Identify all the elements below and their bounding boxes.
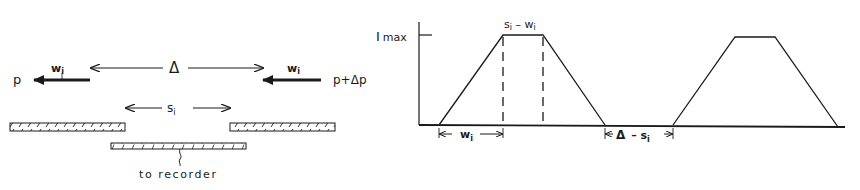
x-axis	[419, 125, 845, 127]
intensity-plot: Imax si – wi wi Δ – si	[376, 18, 845, 144]
delta-label: Δ	[169, 59, 180, 77]
pressure-label-left: p	[13, 72, 21, 87]
peak-2-profile	[673, 37, 838, 127]
peak-1-profile	[439, 35, 605, 125]
apparatus-schematic: p wi Δ wi p+Δp si	[10, 59, 367, 181]
slit-label: si	[167, 101, 176, 117]
detector-plate	[111, 143, 246, 149]
plateau-width-label: si – wi	[504, 18, 536, 32]
gap-label: Δ – si	[616, 128, 650, 144]
right-slit-plate	[230, 123, 335, 131]
flow-label-right: wi	[287, 62, 300, 76]
imax-label: Imax	[376, 29, 407, 44]
flow-label-left: wi	[51, 62, 64, 76]
recorder-wire	[179, 149, 181, 166]
rise-width-label: wi	[460, 128, 473, 143]
pressure-label-right: p+Δp	[333, 73, 367, 87]
left-slit-plate	[10, 123, 125, 131]
diagram-canvas: p wi Δ wi p+Δp si	[0, 0, 860, 190]
recorder-label: to recorder	[139, 168, 218, 181]
